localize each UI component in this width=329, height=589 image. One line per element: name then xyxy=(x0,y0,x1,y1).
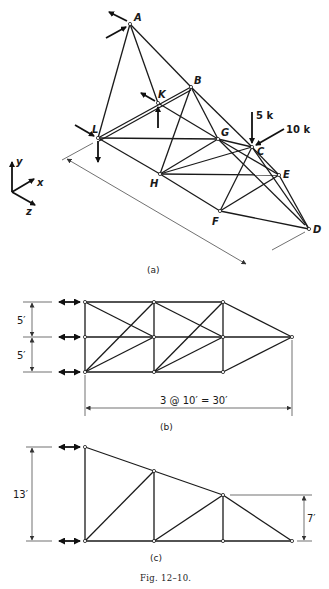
truss-nodes-c xyxy=(83,445,293,542)
support-arrows-c xyxy=(59,447,80,541)
loads-at-c: 5 k 10 k xyxy=(252,110,310,145)
coordinate-axes-icon: y x z xyxy=(12,156,44,217)
space-truss-isometric: 5 k 10 k A B K L G C H E F D y x xyxy=(12,12,321,275)
load-5k-label: 5 k xyxy=(256,110,273,121)
node-label-b: B xyxy=(194,75,202,86)
node-label-h: H xyxy=(150,178,159,189)
node-label-d: D xyxy=(313,224,321,235)
node-label-f: F xyxy=(212,216,219,227)
load-10k-label: 10 k xyxy=(286,124,310,135)
dim-span-label: 3 @ 10′ = 30′ xyxy=(160,395,228,406)
truss-plan-view: 5′ 5′ 3 @ 10′ = 30′ (b) xyxy=(17,300,294,432)
node-label-k: K xyxy=(158,89,167,100)
axis-x-label: x xyxy=(36,177,44,188)
node-label-e: E xyxy=(283,169,290,180)
truss-members-a xyxy=(98,24,309,229)
truss-members-b xyxy=(85,302,292,372)
node-label-l: L xyxy=(92,124,98,135)
axis-y-label: y xyxy=(16,156,23,167)
dim-7ft-label: 7′ xyxy=(307,513,316,524)
part-a-label: (a) xyxy=(147,265,160,275)
dim-upper-label: 5′ xyxy=(17,315,26,326)
truss-members-c xyxy=(85,447,292,541)
dim-lower-label: 5′ xyxy=(17,350,26,361)
node-label-c: C xyxy=(257,146,265,157)
part-c-label: (c) xyxy=(150,553,162,563)
truss-elevation-view: 13′ 7′ (c) xyxy=(13,445,316,563)
dim-13ft-label: 13′ xyxy=(13,489,29,500)
axis-z-label: z xyxy=(25,206,32,217)
figure-caption: Fig. 12–10. xyxy=(140,573,191,583)
part-b-label: (b) xyxy=(160,422,173,432)
reaction-arrows-a xyxy=(75,12,158,162)
support-arrows-b xyxy=(59,302,80,372)
truss-figure: 5 k 10 k A B K L G C H E F D y x xyxy=(0,0,329,589)
node-label-a: A xyxy=(133,12,142,23)
node-label-g: G xyxy=(221,127,229,138)
